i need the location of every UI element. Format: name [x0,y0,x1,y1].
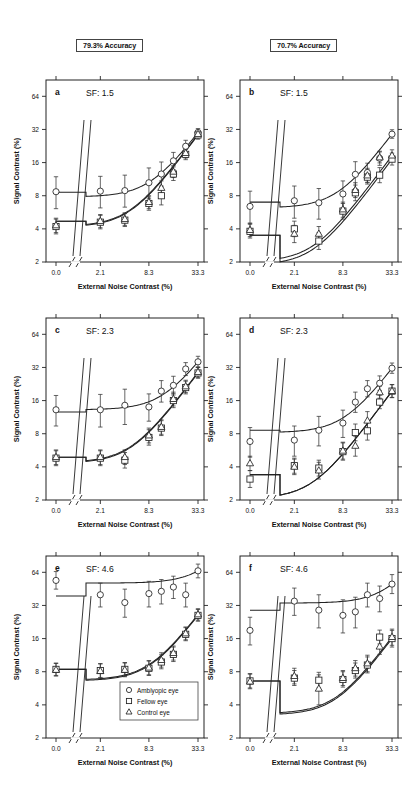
circle-data-marker [247,627,253,633]
plot-c: 2481632640.02.18.333.3cSF: 2.3External N… [8,296,216,541]
y-tick-label: 2 [229,734,233,741]
fit-curve [250,134,392,207]
plot-break-slash [267,596,278,732]
y-tick-label: 8 [229,668,233,675]
plot-b: 2481632640.02.18.333.3bSF: 1.5External N… [202,58,410,303]
legend-label: Amblyopic eye [137,687,179,695]
y-axis-title: Signal Contrast (%) [206,613,215,680]
x-tick-label: 2.1 [290,269,299,276]
x-tick-label: 2.1 [96,507,105,514]
circle-data-marker [170,382,176,388]
circle-data-marker [146,180,152,186]
plot-e: 2481632640.02.18.333.3eSF: 4.6External N… [8,534,216,779]
circle-data-marker [352,399,358,405]
y-tick-label: 8 [229,430,233,437]
column-header-right: 70.7% Accuracy [270,39,337,52]
y-axis-title: Signal Contrast (%) [12,375,21,442]
circle-data-marker [158,171,164,177]
square-data-marker [126,698,131,703]
sf-label: SF: 2.3 [86,326,114,336]
circle-data-marker [183,592,189,598]
y-tick-label: 64 [32,331,40,338]
circle-data-marker [183,366,189,372]
x-tick-label: 8.3 [338,507,347,514]
y-tick-label: 64 [226,331,234,338]
x-tick-label: 2.1 [290,745,299,752]
y-tick-label: 2 [35,496,39,503]
axis-break-gap [71,499,80,501]
y-tick-label: 32 [32,602,40,609]
x-tick-label: 0.0 [51,269,60,276]
circle-data-marker [291,198,297,204]
x-axis-title: External Noise Contrast (%) [78,758,173,767]
y-tick-label: 64 [32,93,40,100]
panel-b: 2481632640.02.18.333.3bSF: 1.5External N… [202,58,410,303]
circle-data-marker [377,595,383,601]
panel-a: 2481632640.02.18.333.3aSF: 1.5External N… [8,58,216,303]
plot-break-slash [73,596,84,732]
circle-data-marker [122,599,128,605]
plot-break-slash [80,120,91,256]
circle-data-marker [158,588,164,594]
circle-data-marker [195,359,201,365]
y-tick-label: 8 [229,192,233,199]
circle-data-marker [316,607,322,613]
plot-break-slash [80,596,91,732]
x-tick-label: 0.0 [51,745,60,752]
column-header-left: 79.3% Accuracy [76,39,143,52]
plot-break-slash [80,358,91,494]
panel-letter: f [249,563,252,573]
y-axis-title: Signal Contrast (%) [206,137,215,204]
x-tick-label: 0.0 [51,507,60,514]
panel-d: 2481632640.02.18.333.3dSF: 2.3External N… [202,296,410,541]
x-tick-label: 0.0 [245,507,254,514]
plot-break-slash [274,358,285,494]
plot-f: 2481632640.02.18.333.3fSF: 4.6External N… [202,534,410,779]
square-data-marker [377,399,383,405]
panel-letter: a [55,87,60,97]
circle-data-marker [122,402,128,408]
sf-label: SF: 2.3 [280,326,308,336]
circle-data-marker [389,131,395,137]
x-tick-label: 2.1 [96,745,105,752]
circle-data-marker [53,407,59,413]
square-data-marker [316,238,322,244]
plot-frame [46,80,204,262]
square-data-marker [352,429,358,435]
x-tick-label: 33.3 [386,507,399,514]
y-tick-label: 64 [226,93,234,100]
triangle-data-marker [121,453,128,459]
x-tick-label: 2.1 [290,507,299,514]
circle-data-marker [146,590,152,596]
legend-label: Fellow eye [137,698,168,706]
y-tick-label: 16 [32,159,40,166]
panel-e: 2481632640.02.18.333.3eSF: 4.6External N… [8,534,216,779]
circle-data-marker [352,609,358,615]
triangle-data-marker [388,152,395,158]
circle-data-marker [247,438,253,444]
square-data-marker [377,172,383,178]
y-tick-label: 2 [229,258,233,265]
sf-label: SF: 1.5 [280,88,308,98]
plot-a: 2481632640.02.18.333.3aSF: 1.5External N… [8,58,216,303]
y-tick-label: 4 [229,701,233,708]
plot-break-slash [267,358,278,494]
circle-data-marker [53,189,59,195]
y-tick-label: 16 [32,635,40,642]
triangle-data-marker [246,460,253,466]
x-axis-title: External Noise Contrast (%) [78,520,173,529]
y-tick-label: 2 [35,258,39,265]
x-tick-label: 33.3 [386,745,399,752]
y-tick-label: 4 [35,701,39,708]
panel-letter: e [55,563,60,573]
legend-label: Control eye [137,709,170,717]
circle-data-marker [170,584,176,590]
panel-letter: c [55,325,60,335]
plot-frame [240,556,398,738]
y-tick-label: 32 [32,364,40,371]
y-tick-label: 8 [35,668,39,675]
y-tick-label: 64 [32,569,40,576]
axis-break-gap [265,261,274,263]
panel-c: 2481632640.02.18.333.3cSF: 2.3External N… [8,296,216,541]
circle-data-marker [352,171,358,177]
